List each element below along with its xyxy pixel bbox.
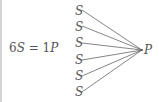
source-s-2: S xyxy=(75,21,83,33)
target-p: P xyxy=(144,44,152,56)
source-s-6: S xyxy=(75,86,83,98)
source-s-4: S xyxy=(75,54,83,66)
connector-line-4 xyxy=(82,50,142,60)
connector-line-6 xyxy=(82,50,142,92)
source-s-5: S xyxy=(75,70,83,82)
connector-line-5 xyxy=(82,50,142,76)
source-s-1: S xyxy=(75,5,83,17)
junction-point xyxy=(141,49,143,51)
source-s-3: S xyxy=(75,37,83,49)
